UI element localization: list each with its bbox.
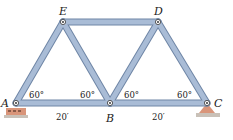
dimension-label-ab: 20′ xyxy=(56,112,69,122)
joint-label-c: C xyxy=(214,97,223,110)
angle-label-c: 60° xyxy=(177,90,192,100)
dimension-label-bc: 20′ xyxy=(152,112,165,122)
joint-label-a: A xyxy=(0,97,9,110)
angle-label-b-left: 60° xyxy=(80,90,95,100)
angle-label-b-right: 60° xyxy=(124,90,139,100)
angle-label-a: 60° xyxy=(29,90,44,100)
joint-label-e: E xyxy=(58,5,67,18)
joint-label-b: B xyxy=(105,112,114,125)
truss-diagram: A B C D E 60° 60° 60° 60° 20′ 20′ xyxy=(0,0,233,140)
joint-label-d: D xyxy=(153,5,163,18)
